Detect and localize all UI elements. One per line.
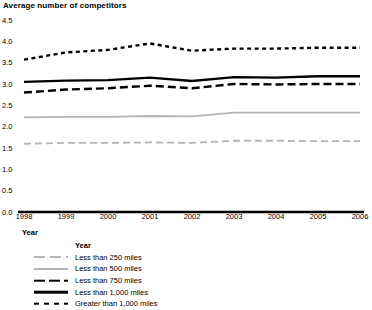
legend-item-label: Less than 1,000 miles xyxy=(75,287,148,298)
x-axis-title: Year xyxy=(22,228,38,237)
y-tick-label: 3.5 xyxy=(2,58,22,67)
legend-title: Year xyxy=(75,240,91,251)
x-tick-label: 2006 xyxy=(343,212,372,221)
y-tick-label: 3.0 xyxy=(2,80,22,89)
x-tick-label: 2001 xyxy=(133,212,167,221)
chart-legend: Year Less than 250 milesLess than 500 mi… xyxy=(34,240,224,310)
legend-swatch-icon xyxy=(34,275,68,286)
legend-swatch-icon xyxy=(34,287,68,298)
y-tick-label: 4.0 xyxy=(2,37,22,46)
chart-svg xyxy=(0,0,372,225)
legend-swatch-icon xyxy=(34,263,68,274)
legend-item[interactable]: Less than 250 miles xyxy=(34,252,224,264)
legend-item-label: Less than 750 miles xyxy=(75,275,142,286)
series-line-3 xyxy=(24,76,360,82)
legend-item[interactable]: Less than 750 miles xyxy=(34,275,224,287)
legend-item-label: Less than 250 miles xyxy=(75,252,142,263)
x-tick-label: 1998 xyxy=(7,212,41,221)
legend-title-spacer xyxy=(34,240,68,251)
legend-item-label: Greater than 1,000 miles xyxy=(75,298,158,309)
legend-swatch-icon xyxy=(34,298,68,309)
y-tick-label: 0.5 xyxy=(2,186,22,195)
x-tick-label: 2003 xyxy=(217,212,251,221)
x-tick-label: 2004 xyxy=(259,212,293,221)
x-tick-label: 2005 xyxy=(301,212,335,221)
legend-item-label: Less than 500 miles xyxy=(75,263,142,274)
x-tick-label: 2002 xyxy=(175,212,209,221)
y-tick-label: 4.5 xyxy=(2,16,22,25)
y-tick-label: 2.5 xyxy=(2,101,22,110)
y-tick-label: 2.0 xyxy=(2,122,22,131)
legend-title-row: Year xyxy=(34,240,224,252)
series-line-2 xyxy=(24,84,360,93)
x-tick-label: 2000 xyxy=(91,212,125,221)
y-tick-label: 1.0 xyxy=(2,165,22,174)
x-tick-label: 1999 xyxy=(49,212,83,221)
plot-area xyxy=(0,0,372,225)
legend-item[interactable]: Greater than 1,000 miles xyxy=(34,298,224,310)
legend-item[interactable]: Less than 1,000 miles xyxy=(34,286,224,298)
y-tick-label: 1.5 xyxy=(2,144,22,153)
series-line-4 xyxy=(24,43,360,59)
series-line-1 xyxy=(24,113,360,118)
legend-swatch-icon xyxy=(34,252,68,263)
series-line-0 xyxy=(24,141,360,144)
legend-item[interactable]: Less than 500 miles xyxy=(34,263,224,275)
